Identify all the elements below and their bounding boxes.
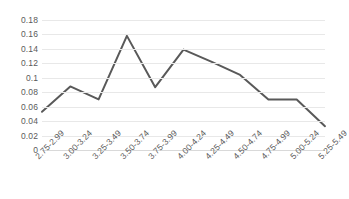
gridline: [42, 107, 325, 108]
gridline: [42, 34, 325, 35]
gridline: [42, 20, 325, 21]
y-axis-tick-label: 0.1: [26, 73, 38, 83]
gridline: [42, 49, 325, 50]
gridline: [42, 63, 325, 64]
y-axis-tick-label: 0.06: [21, 102, 38, 112]
y-axis-tick-label: 0.16: [21, 29, 38, 39]
y-axis-tick-label: 0.02: [21, 131, 38, 141]
gridline: [42, 92, 325, 93]
y-axis-tick-label: 0.12: [21, 58, 38, 68]
y-axis-tick-label: 0.14: [21, 44, 38, 54]
gridline: [42, 78, 325, 79]
y-axis-tick-label: 0.04: [21, 116, 38, 126]
y-axis-tick-label: 0.08: [21, 87, 38, 97]
gridline: [42, 121, 325, 122]
y-axis-tick-label: 0.18: [21, 15, 38, 25]
y-axis: 00.020.040.060.080.10.120.140.160.18: [0, 20, 38, 150]
x-axis: 2.75-2.993.00-3.243.25-3.493.50-3.743.75…: [42, 150, 325, 199]
